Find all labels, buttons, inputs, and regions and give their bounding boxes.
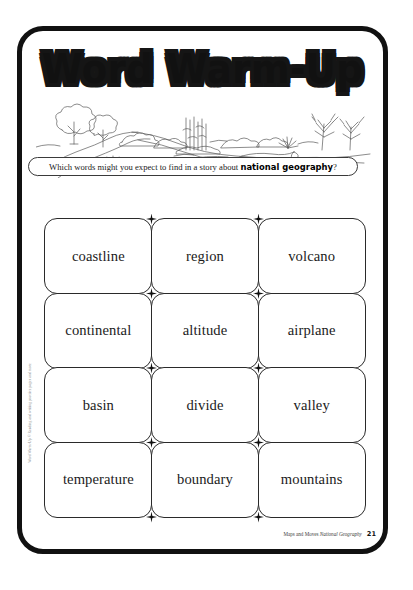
word-card-label: region <box>186 249 224 264</box>
word-card[interactable]: boundary <box>151 442 259 518</box>
footer-credit: Maps and Moves National Geography 21 <box>250 530 376 538</box>
page-title: Word Warm-Up <box>42 46 364 92</box>
instruction-topic: national geography <box>240 162 333 172</box>
instruction-suffix: ? <box>333 162 337 172</box>
word-card[interactable]: mountains <box>258 442 366 518</box>
word-card-label: volcano <box>288 249 335 264</box>
word-card-label: boundary <box>177 472 233 487</box>
word-card[interactable]: coastline <box>44 218 152 294</box>
word-card[interactable]: temperature <box>44 442 152 518</box>
word-card[interactable]: altitude <box>151 293 259 369</box>
word-card-label: coastline <box>72 249 125 264</box>
copyright-text: Word Warm-Up © Reading and writing pract… <box>28 363 32 463</box>
word-card[interactable]: region <box>151 218 259 294</box>
word-card[interactable]: valley <box>258 367 366 443</box>
instruction-prefix: Which words might you expect to find in … <box>49 162 240 172</box>
word-card[interactable]: volcano <box>258 218 366 294</box>
word-card-grid: coastline region volcano continental alt… <box>45 219 365 517</box>
footer-source-prefix: Maps and Moves <box>283 531 318 537</box>
title-banner: Word Warm-Up <box>22 48 383 91</box>
word-card-label: continental <box>65 323 131 338</box>
word-card-label: divide <box>186 398 223 413</box>
word-card[interactable]: continental <box>44 293 152 369</box>
word-card-label: temperature <box>63 472 134 487</box>
word-card[interactable]: divide <box>151 367 259 443</box>
worksheet-page: Word Warm-Up <box>0 0 413 590</box>
footer-source: Maps and Moves National Geography <box>283 531 361 537</box>
page-number: 21 <box>367 530 376 538</box>
word-card-label: altitude <box>183 323 228 338</box>
word-card-label: basin <box>83 398 114 413</box>
word-card-label: mountains <box>281 472 343 487</box>
copyright-sidebar: Word Warm-Up © Reading and writing pract… <box>17 343 35 483</box>
instruction-banner: Which words might you expect to find in … <box>28 157 358 176</box>
instruction-text: Which words might you expect to find in … <box>49 162 337 172</box>
footer-source-title: National Geography <box>320 531 362 537</box>
word-card-label: airplane <box>288 323 336 338</box>
word-card-label: valley <box>294 398 330 413</box>
word-card[interactable]: basin <box>44 367 152 443</box>
word-card[interactable]: airplane <box>258 293 366 369</box>
